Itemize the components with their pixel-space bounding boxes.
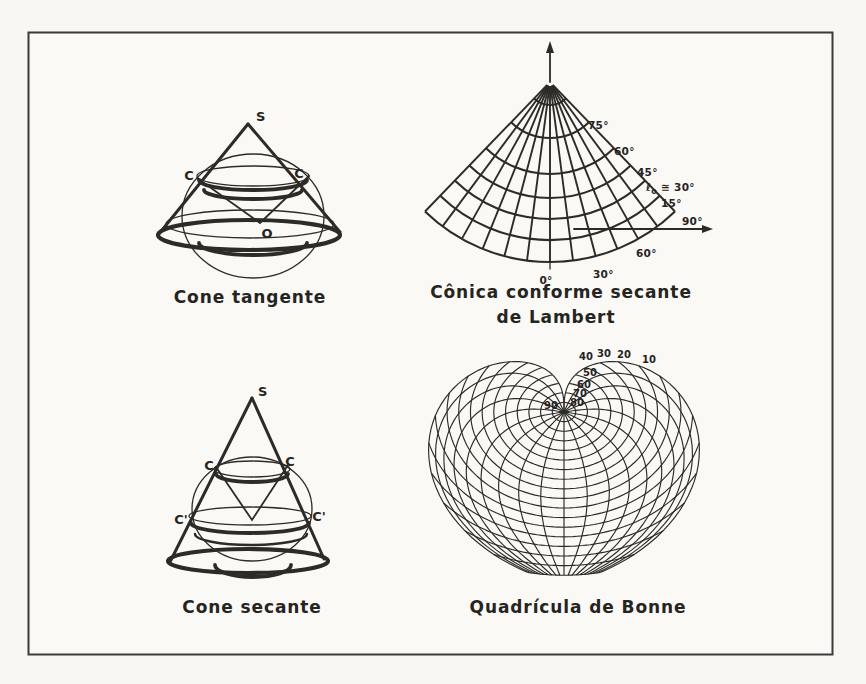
apex-label: S <box>258 384 267 399</box>
tangent-right-label: C <box>294 166 304 181</box>
parallel-label-15: 15° <box>661 197 682 209</box>
bonne-label-30: 30 <box>597 348 611 359</box>
meridian-label-30: 30° <box>593 268 614 280</box>
cone-tangente-caption: Cone tangente <box>174 287 327 307</box>
bonne-label-90: 90 <box>544 400 558 411</box>
center-label: O <box>261 226 272 241</box>
meridian-label-60: 60° <box>636 247 657 259</box>
upper-right-label: C <box>285 454 295 469</box>
apex-label: S <box>256 109 265 124</box>
cone-secante-caption: Cone secante <box>182 597 321 617</box>
lambert-caption-line1: Cônica conforme secante <box>430 282 692 302</box>
lower-right-label: C' <box>312 509 326 524</box>
bonne-caption: Quadrícula de Bonne <box>470 597 687 617</box>
bonne-label-80: 80 <box>570 397 584 408</box>
parallel-label-45: 45° <box>637 166 658 178</box>
latitude-value: ≅ 30° <box>657 181 695 193</box>
tangent-left-label: C <box>184 168 194 183</box>
meridian-label-90: 90° <box>682 215 703 227</box>
lower-left-label: C' <box>174 512 188 527</box>
parallel-label-75: 75° <box>588 119 609 131</box>
figure-border <box>29 33 833 655</box>
lambert-caption-line2: de Lambert <box>497 307 616 327</box>
parallel-label-60: 60° <box>614 145 635 157</box>
bonne-label-50: 50 <box>583 367 597 378</box>
bonne-label-40: 40 <box>579 351 593 362</box>
bonne-label-20: 20 <box>617 349 631 360</box>
figure-canvas: S C C O Cone tangente 75° 60° 45° ℓo ≅ 3… <box>0 0 866 684</box>
upper-left-label: C <box>204 458 214 473</box>
bonne-label-10: 10 <box>642 354 656 365</box>
